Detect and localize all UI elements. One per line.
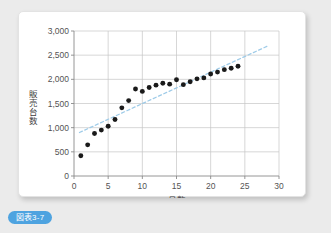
chart-plot-area: 05001,0001,5002,0002,5003,000 0510152025… [19, 12, 305, 196]
x-tick-label: 5 [106, 181, 111, 191]
data-point [215, 70, 220, 75]
data-point [85, 142, 90, 147]
y-axis-title-char: 数 [29, 116, 38, 126]
data-point [92, 131, 97, 136]
scatter-chart: 05001,0001,5002,0002,5003,000 0510152025… [19, 12, 307, 198]
y-tick-label: 1,000 [48, 123, 70, 133]
figure-root: 05001,0001,5002,0002,5003,000 0510152025… [0, 0, 331, 233]
x-tick-label: 10 [138, 181, 148, 191]
y-tick-label: 1,500 [48, 99, 70, 109]
y-tick-label: 2,000 [48, 74, 70, 84]
y-tick-label: 500 [55, 147, 69, 157]
x-tick-labels: 051015202530 [72, 181, 284, 191]
data-point [126, 98, 131, 103]
x-tick-label: 25 [240, 181, 250, 191]
data-point [113, 117, 118, 122]
grid-lines [74, 31, 279, 176]
x-tick-label: 20 [206, 181, 216, 191]
chart-card: 05001,0001,5002,0002,5003,000 0510152025… [18, 11, 306, 197]
x-axis-title: 月数 [168, 195, 186, 198]
data-point [78, 153, 83, 158]
data-point [201, 75, 206, 80]
data-point [154, 83, 159, 88]
data-point [188, 79, 193, 84]
y-tick-label: 2,500 [48, 50, 70, 60]
data-point [222, 67, 227, 72]
data-point [140, 89, 145, 94]
data-point [167, 82, 172, 87]
data-points [78, 64, 240, 158]
data-point [229, 66, 234, 71]
data-point [133, 87, 138, 92]
data-point [147, 85, 152, 90]
data-point [119, 105, 124, 110]
x-tick-label: 30 [274, 181, 284, 191]
data-point [195, 76, 200, 81]
data-point [208, 72, 213, 77]
data-point [236, 64, 241, 69]
figure-caption-badge: 図表3-7 [8, 211, 52, 224]
tick-marks [71, 31, 279, 179]
data-point [174, 77, 179, 82]
x-tick-label: 15 [172, 181, 182, 191]
x-tick-label: 0 [72, 181, 77, 191]
y-tick-label: 0 [64, 171, 69, 181]
y-tick-label: 3,000 [48, 26, 70, 36]
data-point [106, 124, 111, 129]
data-point [181, 82, 186, 87]
y-tick-labels: 05001,0001,5002,0002,5003,000 [48, 26, 70, 181]
data-point [160, 81, 165, 86]
data-point [99, 128, 104, 133]
